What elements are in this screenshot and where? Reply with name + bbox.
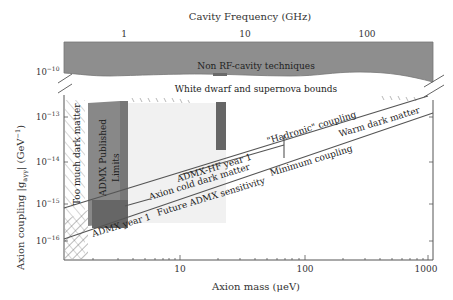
svg-text:10−13: 10−13 (36, 110, 60, 122)
admx-published-label-1: ADMX Published (98, 119, 108, 197)
white-dwarf-label: White dwarf and supernova bounds (175, 84, 338, 94)
band-marker (213, 73, 227, 76)
svg-text:10−10: 10−10 (36, 65, 60, 77)
x-axis-title: Axion mass (μeV) (211, 281, 300, 292)
y-axis-title: Axion coupling |gaγγ| (GeV−1) (14, 125, 29, 271)
svg-text:10−15: 10−15 (36, 197, 60, 209)
axion-exclusion-chart: Cavity Frequency (GHz) 1 10 100 Non RF-c… (0, 0, 453, 300)
top-axis-title: Cavity Frequency (GHz) (189, 11, 311, 22)
freq-tick-1: 1 (121, 29, 127, 39)
white-dwarf-hatch (132, 96, 416, 104)
non-rf-label: Non RF-cavity techniques (197, 61, 315, 71)
svg-text:10−16: 10−16 (36, 234, 60, 246)
freq-tick-100: 100 (358, 29, 375, 39)
min-coupling-label: Minimum coupling (269, 143, 354, 178)
x-tick-1000: 1000 (415, 264, 438, 274)
x-tick-100: 100 (296, 264, 313, 274)
x-tick-10: 10 (174, 264, 186, 274)
admx-published-label-2: Limits (111, 153, 121, 182)
svg-text:10−14: 10−14 (36, 155, 60, 167)
freq-tick-10: 10 (239, 29, 251, 39)
x-ticks (93, 255, 428, 260)
axis-break-left (58, 74, 72, 93)
too-much-dm-label: Too much dark matter (72, 103, 82, 205)
y-tick-labels: 10−10 10−13 10−14 10−15 10−16 (36, 65, 60, 246)
admx-hf-bar (216, 102, 226, 150)
